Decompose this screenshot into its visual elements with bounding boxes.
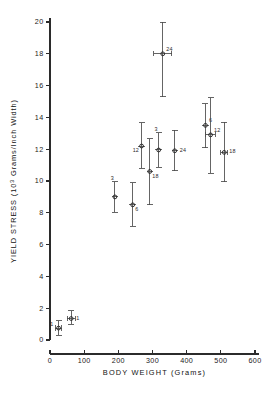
y-tick-label: 12 — [35, 145, 44, 154]
y-tick-label: 14 — [35, 113, 44, 122]
y-tick-label: 0 — [39, 335, 43, 344]
data-point: 3 — [154, 126, 161, 167]
data-point: 3 — [111, 175, 118, 212]
data-point-group: 113612183242461218 — [50, 22, 235, 335]
y-tick-label: 8 — [39, 208, 43, 217]
x-tick-label: 600 — [248, 356, 261, 365]
y-tick-label: 6 — [39, 240, 43, 249]
data-point: 6 — [129, 183, 138, 227]
y-axis-title: YIELD STRESS (103 Grams/Inch Width) — [9, 99, 18, 263]
x-tick-label: 0 — [48, 356, 52, 365]
sample-count-label: 24 — [166, 46, 172, 52]
y-tick-label: 2 — [39, 304, 43, 313]
data-point: 24 — [172, 130, 187, 171]
data-point: 12 — [133, 123, 145, 168]
sample-count-label: 18 — [229, 148, 235, 154]
y-axis-title-units: Grams/Inch Width) — [9, 99, 18, 179]
x-tick-label: 400 — [180, 356, 193, 365]
x-tick-label: 200 — [112, 356, 125, 365]
data-point: 1 — [50, 321, 61, 336]
data-point: 18 — [221, 122, 236, 182]
sample-count-label: 3 — [111, 175, 114, 181]
sample-count-label: 12 — [133, 147, 139, 153]
data-point: 1 — [67, 311, 79, 325]
sample-count-label: 6 — [135, 206, 138, 212]
x-axis-title: BODY WEIGHT (Grams) — [103, 368, 206, 377]
scatter-plot-figure: 024681012141618200100200300400500600BODY… — [0, 0, 270, 397]
sample-count-label: 18 — [152, 173, 158, 179]
sample-count-label: 3 — [154, 126, 157, 132]
y-tick-label: 20 — [35, 17, 44, 26]
sample-count-label: 1 — [50, 321, 53, 327]
y-tick-label: 16 — [35, 81, 44, 90]
sample-count-label: 24 — [180, 147, 186, 153]
y-tick-label: 4 — [39, 272, 43, 281]
y-axis-title-main: YIELD STRESS (10 — [9, 183, 18, 263]
data-point: 12 — [206, 98, 221, 174]
plot-canvas: 024681012141618200100200300400500600BODY… — [0, 0, 270, 397]
sample-count-label: 1 — [76, 315, 79, 321]
y-tick-label: 18 — [35, 49, 44, 58]
x-tick-label: 100 — [78, 356, 91, 365]
x-tick-label: 300 — [146, 356, 159, 365]
sample-count-label: 12 — [214, 127, 220, 133]
data-point: 24 — [154, 22, 173, 97]
y-tick-label: 10 — [35, 176, 44, 185]
x-tick-label: 500 — [214, 356, 227, 365]
